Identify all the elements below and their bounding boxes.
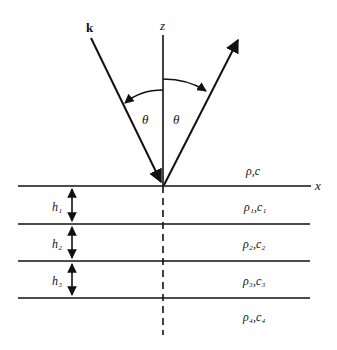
medium-label-0: ρ,c	[245, 164, 261, 178]
thickness-label-1: h₁	[52, 200, 62, 214]
incident-angle-arc	[125, 90, 163, 103]
reflected-angle-arc	[163, 79, 206, 91]
incident-wave-arrow	[91, 38, 161, 182]
z-axis-label: z	[159, 18, 165, 33]
medium-label-3: ρ₃,c₃	[242, 274, 265, 288]
thickness-label-2: h₂	[52, 237, 62, 251]
layered-media-diagram: z k θ θ x h₁ h₂ h₃ ρ,c ρ₁,c₁ ρ₂,c₂ ρ₃,c₃…	[0, 0, 337, 350]
reflected-angle-label: θ	[173, 112, 180, 127]
medium-label-4: ρ₄,c₄	[242, 310, 265, 324]
incident-angle-label: θ	[142, 112, 149, 127]
thickness-label-3: h₃	[52, 274, 62, 288]
medium-label-2: ρ₂,c₂	[242, 237, 265, 251]
wave-vector-label: k	[86, 20, 94, 35]
medium-label-1: ρ₁,c₁	[243, 200, 266, 214]
x-axis-label: x	[314, 178, 321, 193]
